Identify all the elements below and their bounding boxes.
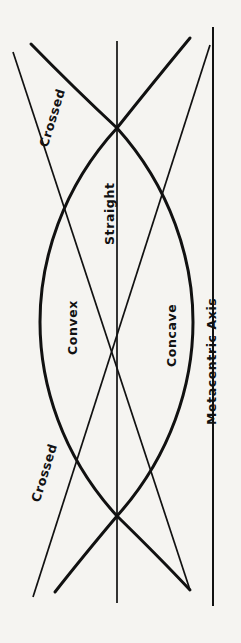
thick-upper-right-segment — [117, 38, 190, 128]
label-straight: Straight — [104, 183, 117, 245]
label-metacentric-axis-text: Metacentric Axis — [204, 298, 219, 425]
concave-curve — [117, 128, 193, 516]
label-straight-text: Straight — [102, 183, 117, 245]
label-convex-text: Convex — [65, 300, 80, 355]
label-metacentric-axis: Metacentric Axis — [206, 298, 219, 425]
metacentric-diagram: Crossed Crossed Straight Convex Concave … — [0, 0, 241, 643]
crossed-line-b — [33, 45, 210, 597]
label-concave: Concave — [166, 304, 179, 367]
thick-lower-left-segment — [55, 516, 117, 592]
label-convex: Convex — [67, 300, 80, 355]
thick-lower-right-segment — [117, 516, 190, 590]
label-concave-text: Concave — [164, 304, 179, 367]
